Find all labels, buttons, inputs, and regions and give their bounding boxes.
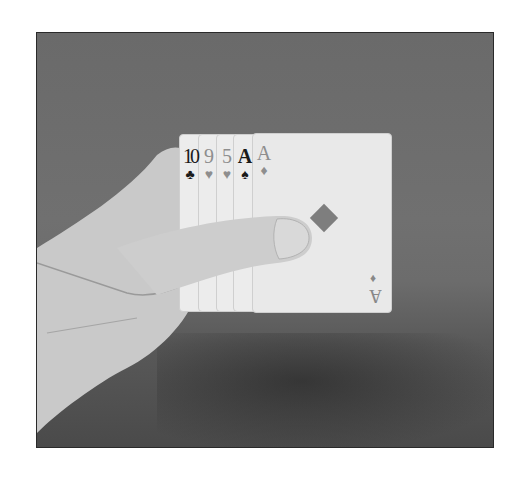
thumb <box>37 33 494 448</box>
photo-frame: 10 ♣ 9 ♥ 5 ♥ A ♠ A ♦ ♦ A <box>36 32 494 448</box>
